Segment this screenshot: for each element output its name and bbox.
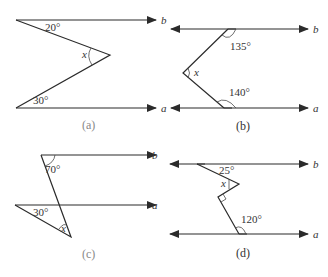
angle-label-top: 20° xyxy=(45,21,60,33)
caption-a: (a) xyxy=(82,118,95,132)
angle-label-120: 120° xyxy=(241,213,262,225)
line-label-a: a xyxy=(161,102,167,114)
angle-arc-x xyxy=(188,68,190,78)
angle-label-135: 135° xyxy=(230,40,251,52)
angle-label-x: x xyxy=(60,222,66,234)
line-label-b: b xyxy=(313,158,319,170)
angle-arc-x xyxy=(89,48,92,65)
angle-label-30: 30° xyxy=(33,206,48,218)
line-label-a: a xyxy=(313,228,319,240)
angle-label-25: 25° xyxy=(219,164,234,176)
caption-c: (c) xyxy=(82,247,95,261)
angle-label-x: x xyxy=(81,48,87,60)
line-label-b: b xyxy=(313,23,319,35)
line-label-a: a xyxy=(313,102,319,114)
transversal-zigzag xyxy=(183,29,228,108)
angle-label-x: x xyxy=(220,177,226,189)
angle-label-x: x xyxy=(193,66,199,78)
caption-b: (b) xyxy=(236,119,250,133)
line-label-a: a xyxy=(152,199,158,211)
figure-b: 135° x 140° b a (b) xyxy=(171,23,319,133)
line-label-b: b xyxy=(152,149,158,161)
angle-label-bottom: 30° xyxy=(33,94,48,106)
caption-d: (d) xyxy=(236,246,250,260)
figure-c: 70° 30° x b a (c) xyxy=(15,149,158,261)
transversal-zigzag xyxy=(16,20,110,108)
parallel-lines-angle-diagrams: 20° x 30° b a (a) 135° x 140° b a (b) 70… xyxy=(0,0,328,277)
angle-label-70: 70° xyxy=(45,163,60,175)
angle-label-140: 140° xyxy=(229,86,250,98)
figure-d: 25° x 120° b a (d) xyxy=(170,158,319,260)
line-label-b: b xyxy=(161,14,167,26)
figure-a: 20° x 30° b a (a) xyxy=(16,14,167,132)
